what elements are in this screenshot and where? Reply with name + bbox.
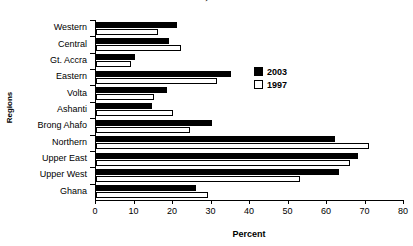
bar-1997 — [96, 61, 131, 67]
y-axis-label: Ashanti — [0, 105, 87, 114]
legend-label: 2003 — [267, 67, 287, 77]
x-axis-tick-label: 10 — [119, 206, 149, 216]
chart-title: in 1997, 2003 — [0, 0, 405, 2]
y-axis-label: Northern — [0, 138, 87, 147]
x-axis-tick — [211, 200, 212, 204]
legend-swatch-icon — [254, 80, 263, 89]
bar-2003 — [96, 38, 169, 44]
bar-2003 — [96, 169, 339, 175]
plot-area — [95, 20, 403, 200]
x-axis-tick — [134, 200, 135, 204]
x-axis-title: Percent — [95, 229, 403, 239]
x-axis-tick-label: 60 — [311, 206, 341, 216]
bar-1997 — [96, 110, 173, 116]
bar-1997 — [96, 94, 154, 100]
bar-1997 — [96, 143, 369, 149]
bar-2003 — [96, 103, 152, 109]
x-axis-tick — [172, 200, 173, 204]
bar-2003 — [96, 71, 231, 77]
bar-2003 — [96, 22, 177, 28]
y-axis-label: Central — [0, 40, 87, 49]
bar-2003 — [96, 120, 212, 126]
y-axis-labels: WesternCentralGt. AccraEasternVoltaAshan… — [0, 20, 92, 200]
x-axis-tick-label: 70 — [350, 206, 380, 216]
bar-2003 — [96, 87, 167, 93]
bar-1997 — [96, 78, 217, 84]
x-axis-tick-label: 0 — [80, 206, 110, 216]
legend-swatch-icon — [254, 67, 263, 76]
bar-2003 — [96, 153, 358, 159]
legend-label: 1997 — [267, 80, 287, 90]
bar-2003 — [96, 54, 135, 60]
x-axis-tick-label: 20 — [157, 206, 187, 216]
bar-2003 — [96, 185, 196, 191]
y-axis-label: Eastern — [0, 72, 87, 81]
x-axis-tick-label: 30 — [196, 206, 226, 216]
y-axis-label: Brong Ahafo — [0, 121, 87, 130]
x-axis-tick — [288, 200, 289, 204]
bar-1997 — [96, 160, 350, 166]
y-axis-label: Western — [0, 23, 87, 32]
bar-1997 — [96, 45, 181, 51]
y-axis-label: Upper East — [0, 154, 87, 163]
x-axis-tick — [95, 200, 96, 204]
y-axis-label: Volta — [0, 89, 87, 98]
bar-1997 — [96, 127, 190, 133]
bar-1997 — [96, 192, 208, 198]
bar-group — [96, 118, 403, 134]
bar-group — [96, 69, 403, 85]
bar-group — [96, 151, 403, 167]
chart-legend: 20031997 — [254, 65, 287, 91]
bar-group — [96, 102, 403, 118]
x-axis-tick — [249, 200, 250, 204]
bar-group — [96, 20, 403, 36]
bar-group — [96, 167, 403, 183]
y-axis-label: Gt. Accra — [0, 56, 87, 65]
y-axis-label: Ghana — [0, 187, 87, 196]
bar-group — [96, 36, 403, 52]
bar-1997 — [96, 29, 158, 35]
x-axis-tick — [403, 200, 404, 204]
x-axis-tick-label: 50 — [273, 206, 303, 216]
x-axis-tick-label: 80 — [388, 206, 413, 216]
legend-item-2003: 2003 — [254, 65, 287, 78]
bar-2003 — [96, 136, 335, 142]
x-axis-tick-label: 40 — [234, 206, 264, 216]
x-axis-tick — [365, 200, 366, 204]
bar-group — [96, 53, 403, 69]
x-axis-tick — [326, 200, 327, 204]
bar-group — [96, 135, 403, 151]
bar-group — [96, 184, 403, 200]
bar-1997 — [96, 176, 300, 182]
bar-group — [96, 85, 403, 101]
y-axis-label: Upper West — [0, 170, 87, 179]
legend-item-1997: 1997 — [254, 78, 287, 91]
